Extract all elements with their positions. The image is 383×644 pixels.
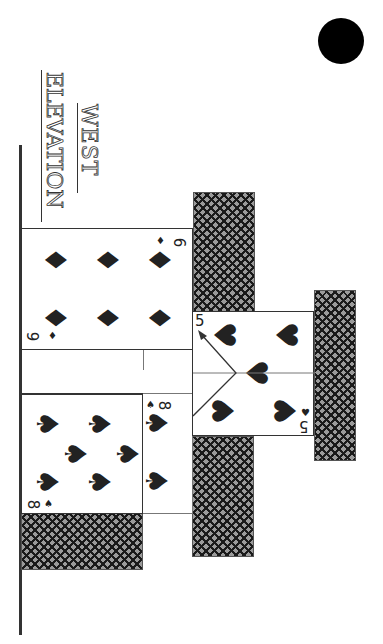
spade-icon: ♠ bbox=[60, 441, 90, 468]
card-five-of-hearts: 5 ♥ ♥ ♥ ♥ ♥ ♥ 5 bbox=[192, 311, 314, 436]
diamond-icon: ♦ bbox=[144, 247, 174, 274]
divider-thin bbox=[143, 350, 144, 370]
card-back-lower-middle bbox=[192, 436, 254, 557]
diamond-index-icon: ♦ bbox=[156, 236, 165, 246]
arrow-annotation-icon bbox=[193, 312, 315, 437]
spade-icon: ♠ bbox=[84, 411, 114, 438]
rank-index-top: 8 bbox=[156, 401, 171, 411]
spade-icon: ♠ bbox=[32, 411, 62, 438]
card-six-of-diamonds: 6 ♦ ♦ ♦ ♦ ♦ ♦ ♦ 6 ♦ bbox=[21, 228, 193, 350]
diamond-index-icon: ♦ bbox=[48, 331, 57, 341]
diamond-icon: ♦ bbox=[92, 305, 122, 332]
spade-icon: ♠ bbox=[32, 469, 62, 496]
diamond-icon: ♦ bbox=[40, 305, 70, 332]
title-elevation: ELEVATION bbox=[42, 72, 67, 208]
spade-icon: ♠ bbox=[141, 410, 171, 437]
card-eight-of-spades-overhang: ♠ ♠ ♠ 8 bbox=[143, 393, 193, 514]
rank-index-bottom: 8 bbox=[25, 500, 40, 510]
diamond-icon: ♦ bbox=[144, 305, 174, 332]
spade-index-icon: ♠ bbox=[44, 499, 53, 509]
card-gap-frame bbox=[21, 349, 193, 394]
spade-icon: ♠ bbox=[84, 469, 114, 496]
black-dot-marker bbox=[318, 18, 364, 64]
diamond-icon: ♦ bbox=[40, 247, 70, 274]
title-west: WEST bbox=[77, 104, 102, 176]
rank-index-bottom: 6 bbox=[27, 332, 42, 342]
card-back-upper-middle bbox=[193, 192, 255, 312]
diamond-icon: ♦ bbox=[92, 247, 122, 274]
spade-index-icon: ♠ bbox=[146, 400, 155, 410]
card-back-bottom-left bbox=[21, 513, 143, 570]
spade-icon: ♠ bbox=[141, 468, 171, 495]
card-eight-of-spades: ♠ ♠ ♠ ♠ ♠ ♠ 8 ♠ bbox=[21, 393, 144, 514]
card-back-right bbox=[314, 290, 356, 461]
spade-icon: ♠ bbox=[112, 441, 142, 468]
